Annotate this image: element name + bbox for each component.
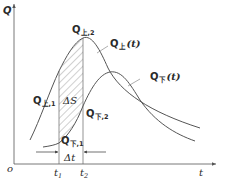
q-upper-1-label: Q上,1 [33,95,56,108]
t1-label: t1 [54,167,62,180]
upper-curve-label: Q上(t) [110,38,141,51]
delta-t-label: Δt [63,152,76,163]
q-lower-1-label: Q下,1 [61,135,84,148]
hydrograph-diagram: Q t o t1 t2 Q上(t) Q下(t) Q上,2 Q上,1 Q下,2 Q… [0,0,227,183]
delta-s-label: ΔS [62,95,77,106]
q-upper-2-label: Q上,2 [72,24,95,37]
upper-inflow-curve [30,37,200,140]
q-lower-2-label: Q下,2 [86,108,109,121]
y-axis-label: Q [3,5,12,16]
lower-curve-label: Q下(t) [150,71,181,84]
x-axis-label: t [199,167,204,178]
t2-label: t2 [80,167,88,180]
lower-curve-leader [128,79,140,86]
origin-label: o [7,163,13,174]
delta-s-hatched-area [59,38,83,143]
